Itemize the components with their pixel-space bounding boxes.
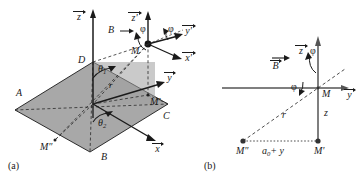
b-point-M-marker bbox=[317, 87, 320, 90]
figure-container: z y x z' y' x' A B C D M M' M″ θ1 θ2 φ φ… bbox=[0, 0, 364, 179]
axis-xprime-label-a: x' bbox=[182, 52, 195, 63]
field-B-arrowhead-a bbox=[129, 29, 134, 34]
b-line-r bbox=[243, 88, 318, 141]
axis-x-arrowhead bbox=[146, 134, 156, 141]
vector-bar-xprime-a bbox=[182, 52, 195, 53]
angle-theta2-label: θ2 bbox=[98, 118, 106, 129]
axis-x-label-a: x bbox=[152, 143, 163, 154]
theta2-subscript: 2 bbox=[103, 122, 106, 129]
angle-theta1-label: θ1 bbox=[98, 64, 106, 75]
b-point-M-label: M bbox=[322, 89, 330, 99]
point-Mdoubleprime-marker bbox=[54, 139, 57, 142]
b-field-B-arrowhead bbox=[284, 55, 290, 61]
b-axis-y-label: y bbox=[344, 89, 355, 100]
vector-bar-x-a bbox=[152, 143, 163, 144]
b-angle-phi-top-arc bbox=[309, 56, 316, 73]
axis-zprime-label-a: z' bbox=[128, 12, 141, 23]
vector-bar-y-b bbox=[344, 89, 355, 90]
b-point-Mdoubleprime-label: M″ bbox=[236, 146, 249, 156]
axis-xprime-line bbox=[148, 44, 177, 57]
b-angle-phi-bottom-arrowhead bbox=[299, 89, 305, 96]
prime-mark-y: ' bbox=[190, 25, 192, 36]
prime-mark-x: ' bbox=[190, 52, 192, 63]
angle-phi-left-label-a: φ bbox=[140, 24, 146, 34]
b-angle-phi-bottom-label: φ bbox=[291, 82, 297, 92]
theta1-subscript: 1 bbox=[103, 68, 106, 75]
baseline-rest: + y bbox=[270, 145, 284, 156]
b-point-Mprime-label: M' bbox=[314, 146, 324, 156]
prime-mark-z: ' bbox=[135, 12, 137, 23]
point-Mprime-label-a: M' bbox=[150, 97, 160, 107]
vector-bar-B-b bbox=[270, 60, 281, 61]
angle-phi-right-label-a: φ bbox=[168, 24, 174, 34]
point-M-label-a: M bbox=[131, 46, 139, 56]
plane-corner-B: B bbox=[101, 152, 107, 162]
axis-z-label-a: z bbox=[73, 11, 85, 22]
caption-a: (a) bbox=[8, 160, 19, 171]
axis-zprime-arrowhead bbox=[145, 11, 151, 20]
axis-y-label-a: y bbox=[164, 72, 175, 83]
radius-label-a: r bbox=[109, 81, 113, 90]
vector-bar-yprime-a bbox=[182, 25, 195, 26]
axis-yprime-line bbox=[148, 36, 178, 44]
b-line-r-extension bbox=[318, 69, 345, 88]
vector-bar-z-b bbox=[295, 45, 307, 46]
panel-a-graphics bbox=[15, 9, 183, 152]
vector-bar-y-a bbox=[164, 72, 175, 73]
b-angle-phi-top-label: φ bbox=[310, 46, 316, 56]
point-Mdoubleprime-label-a: M″ bbox=[40, 142, 53, 152]
b-height-label: z bbox=[324, 108, 328, 118]
b-field-B-label: B bbox=[270, 60, 281, 71]
axis-xprime-arrowhead bbox=[172, 53, 182, 60]
b-axis-z-label: z bbox=[295, 45, 307, 56]
axis-z-arrowhead bbox=[90, 9, 96, 18]
plane-corner-D: D bbox=[78, 55, 85, 65]
vector-bar-zprime-a bbox=[128, 12, 141, 13]
caption-b: (b) bbox=[204, 160, 216, 171]
b-radius-label: r bbox=[282, 110, 286, 120]
plane-corner-A: A bbox=[16, 88, 22, 98]
b-baseline-label: a0+ y bbox=[262, 146, 284, 157]
b-point-Mdoubleprime-marker bbox=[240, 138, 245, 143]
vector-bar-z-a bbox=[73, 11, 85, 12]
plane-corner-C: C bbox=[163, 111, 170, 121]
field-B-label-a: B bbox=[108, 25, 114, 35]
axis-yprime-label-a: y' bbox=[182, 25, 195, 36]
